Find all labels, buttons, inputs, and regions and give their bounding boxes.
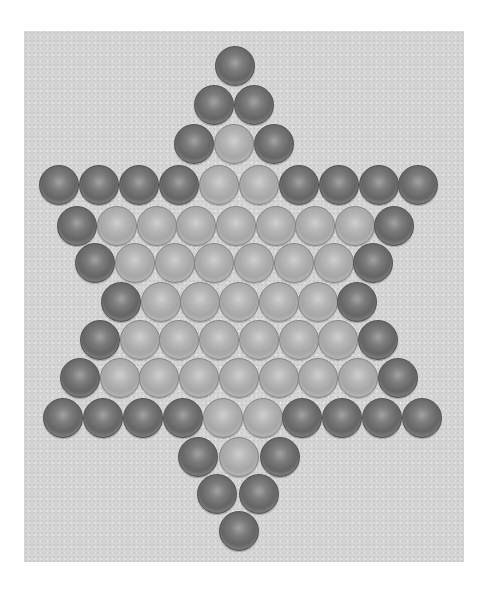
light-marble[interactable] — [239, 165, 279, 205]
light-marble[interactable] — [335, 206, 375, 246]
light-marble[interactable] — [219, 358, 259, 398]
light-marble[interactable] — [137, 206, 177, 246]
light-marble[interactable] — [214, 124, 254, 164]
light-marble[interactable] — [314, 243, 354, 283]
light-marble[interactable] — [298, 358, 338, 398]
game-board — [24, 31, 464, 562]
dark-marble[interactable] — [174, 124, 214, 164]
dark-marble[interactable] — [279, 165, 319, 205]
dark-marble[interactable] — [163, 398, 203, 438]
dark-marble[interactable] — [319, 165, 359, 205]
dark-marble[interactable] — [75, 243, 115, 283]
dark-marble[interactable] — [80, 320, 120, 360]
dark-marble[interactable] — [101, 282, 141, 322]
light-marble[interactable] — [176, 206, 216, 246]
dark-marble[interactable] — [197, 474, 237, 514]
light-marble[interactable] — [216, 206, 256, 246]
light-marble[interactable] — [219, 282, 259, 322]
light-marble[interactable] — [338, 358, 378, 398]
dark-marble[interactable] — [219, 511, 259, 551]
light-marble[interactable] — [159, 320, 199, 360]
dark-marble[interactable] — [358, 320, 398, 360]
dark-marble[interactable] — [60, 358, 100, 398]
light-marble[interactable] — [256, 206, 296, 246]
dark-marble[interactable] — [322, 398, 362, 438]
light-marble[interactable] — [199, 165, 239, 205]
dark-marble[interactable] — [194, 85, 234, 125]
light-marble[interactable] — [203, 398, 243, 438]
dark-marble[interactable] — [119, 165, 159, 205]
light-marble[interactable] — [259, 282, 299, 322]
light-marble[interactable] — [239, 320, 279, 360]
dark-marble[interactable] — [57, 206, 97, 246]
dark-marble[interactable] — [282, 398, 322, 438]
dark-marble[interactable] — [260, 437, 300, 477]
dark-marble[interactable] — [159, 165, 199, 205]
light-marble[interactable] — [139, 358, 179, 398]
light-marble[interactable] — [318, 320, 358, 360]
dark-marble[interactable] — [398, 165, 438, 205]
dark-marble[interactable] — [123, 398, 163, 438]
dark-marble[interactable] — [83, 398, 123, 438]
light-marble[interactable] — [274, 243, 314, 283]
light-marble[interactable] — [120, 320, 160, 360]
dark-marble[interactable] — [39, 165, 79, 205]
dark-marble[interactable] — [378, 358, 418, 398]
dark-marble[interactable] — [374, 206, 414, 246]
dark-marble[interactable] — [215, 46, 255, 86]
dark-marble[interactable] — [402, 398, 442, 438]
light-marble[interactable] — [141, 282, 181, 322]
light-marble[interactable] — [279, 320, 319, 360]
light-marble[interactable] — [179, 358, 219, 398]
dark-marble[interactable] — [353, 243, 393, 283]
dark-marble[interactable] — [79, 165, 119, 205]
dark-marble[interactable] — [359, 165, 399, 205]
light-marble[interactable] — [298, 282, 338, 322]
light-marble[interactable] — [194, 243, 234, 283]
dark-marble[interactable] — [178, 437, 218, 477]
dark-marble[interactable] — [362, 398, 402, 438]
light-marble[interactable] — [97, 206, 137, 246]
light-marble[interactable] — [100, 358, 140, 398]
dark-marble[interactable] — [337, 282, 377, 322]
light-marble[interactable] — [295, 206, 335, 246]
dark-marble[interactable] — [254, 124, 294, 164]
light-marble[interactable] — [155, 243, 195, 283]
light-marble[interactable] — [219, 437, 259, 477]
light-marble[interactable] — [199, 320, 239, 360]
dark-marble[interactable] — [239, 474, 279, 514]
light-marble[interactable] — [180, 282, 220, 322]
light-marble[interactable] — [115, 243, 155, 283]
dark-marble[interactable] — [43, 398, 83, 438]
light-marble[interactable] — [234, 243, 274, 283]
light-marble[interactable] — [259, 358, 299, 398]
light-marble[interactable] — [243, 398, 283, 438]
dark-marble[interactable] — [234, 85, 274, 125]
